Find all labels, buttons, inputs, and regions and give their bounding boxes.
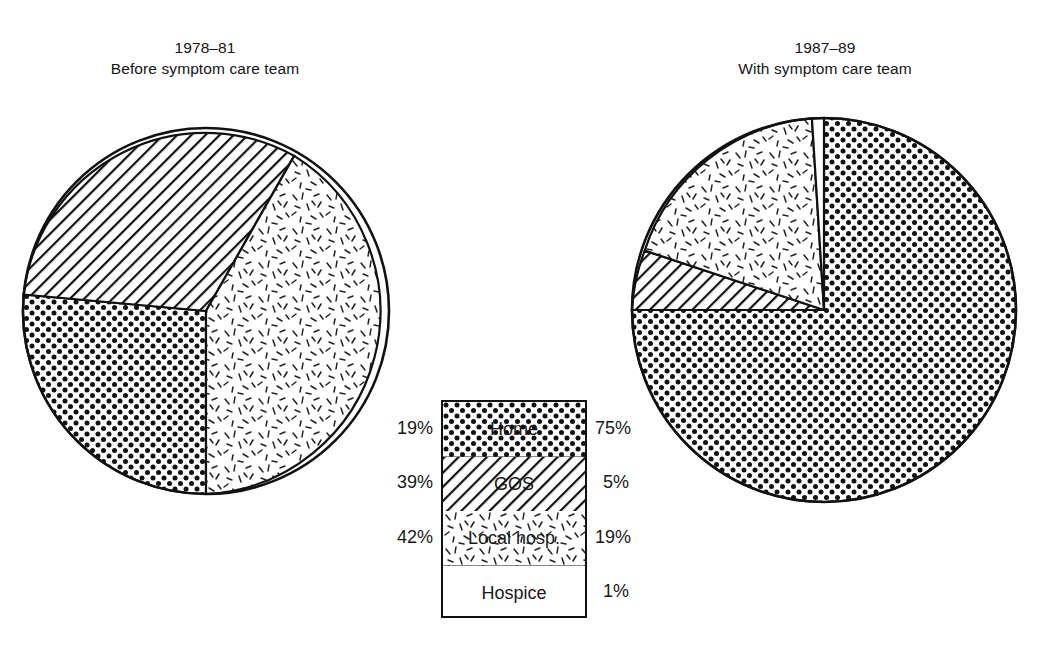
legend-row-home: Home	[443, 402, 585, 457]
legend-label: Home	[443, 419, 585, 440]
right-pie-title: 1987–89 With symptom care team	[675, 37, 975, 79]
legend-left-pct-home: 19%	[373, 418, 433, 439]
legend-right-pct-gos: 5%	[603, 472, 663, 493]
figure-canvas: 1978–81 Before symptom care team	[0, 0, 1037, 652]
left-pie-chart	[18, 123, 394, 499]
left-pie-title: 1978–81 Before symptom care team	[55, 37, 355, 79]
legend: Home GOS Local hosp. Hospice	[441, 400, 587, 618]
left-slice-home	[23, 295, 206, 495]
legend-left-pct-gos: 39%	[373, 472, 433, 493]
legend-row-hospice: Hospice	[443, 566, 585, 621]
legend-label: Hospice	[443, 582, 585, 603]
legend-right-pct-local-hosp: 19%	[595, 527, 655, 548]
legend-label: GOS	[443, 473, 585, 494]
right-pie-chart	[631, 115, 1021, 505]
right-pie-year: 1987–89	[675, 37, 975, 58]
legend-right-pct-home: 75%	[595, 418, 655, 439]
legend-row-local-hosp: Local hosp.	[443, 511, 585, 566]
left-pie-subtitle: Before symptom care team	[55, 58, 355, 79]
legend-box: Home GOS Local hosp. Hospice	[441, 400, 587, 618]
cropped-caption-strip	[0, 642, 1037, 652]
legend-left-pct-local-hosp: 42%	[373, 527, 433, 548]
right-pie-subtitle: With symptom care team	[675, 58, 975, 79]
legend-label: Local hosp.	[443, 528, 585, 549]
left-pie-year: 1978–81	[55, 37, 355, 58]
legend-row-gos: GOS	[443, 457, 585, 512]
legend-right-pct-hospice: 1%	[603, 581, 663, 602]
